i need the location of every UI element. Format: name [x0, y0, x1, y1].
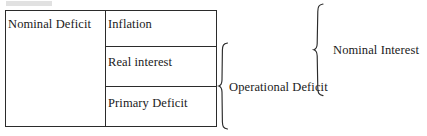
- scan-artifact: [6, 1, 52, 6]
- brace-nominal-interest-icon: [313, 3, 327, 97]
- cell-nominal-deficit: Nominal Deficit: [8, 18, 91, 31]
- diagram-canvas: Nominal Deficit Inflation Real interest …: [0, 0, 427, 136]
- cell-inflation: Inflation: [108, 18, 152, 31]
- cell-real-interest: Real interest: [108, 56, 172, 69]
- cell-primary-deficit: Primary Deficit: [108, 97, 188, 110]
- label-nominal-interest: Nominal Interest: [333, 44, 419, 57]
- table-row-divider-2: [105, 86, 216, 87]
- table-column-divider: [105, 11, 106, 126]
- table-row-divider-1: [105, 46, 216, 47]
